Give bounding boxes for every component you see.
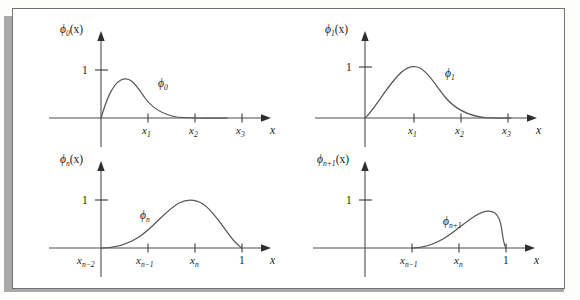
x-axis-label: x	[269, 124, 276, 136]
y-tick-label-one: 1	[346, 194, 352, 206]
origin-label: xn−2	[76, 254, 95, 269]
figure-plate: ϕ0(x) 1 x1 x2 x3 x ϕ0	[12, 8, 565, 289]
x-tick-label-1: xn−1	[399, 254, 418, 269]
y-axis-arrow-icon	[97, 161, 104, 171]
y-tick-label-one: 1	[82, 194, 88, 206]
x-axis-label: x	[269, 254, 276, 266]
x-tick-label-3: x3	[235, 124, 245, 139]
curve-label-phi-1: ϕ1	[445, 67, 455, 82]
x-tick-label-1: x1	[407, 124, 417, 139]
y-tick-label-one: 1	[346, 61, 352, 73]
curve-phi-n	[101, 200, 242, 248]
panel-phi-0: ϕ0(x) 1 x1 x2 x3 x ϕ0	[27, 15, 295, 155]
y-axis-label: ϕn(x)	[60, 153, 83, 168]
y-axis-label: ϕ1(x)	[325, 23, 348, 38]
y-axis-label: ϕn+1(x)	[317, 153, 349, 168]
x-tick-label-2: x2	[454, 124, 464, 139]
y-axis-arrow-icon	[97, 31, 104, 41]
curve-phi-1	[365, 67, 511, 118]
x-tick-label-3: 1	[239, 254, 245, 266]
x-axis-arrow-icon	[525, 244, 535, 251]
x-tick-label-3: x3	[501, 124, 511, 139]
curve-label-phi-n-plus-1: ϕn+1	[443, 215, 462, 230]
y-tick-label-one: 1	[82, 64, 88, 76]
curve-label-phi-n: ϕn	[140, 209, 150, 224]
x-tick-label-2: xn	[453, 254, 463, 269]
x-tick-label-1: xn−1	[135, 254, 154, 269]
x-axis-arrow-icon	[261, 114, 271, 121]
x-axis-label: x	[533, 254, 540, 266]
y-axis-arrow-icon	[361, 31, 368, 41]
x-tick-label-3: 1	[503, 254, 509, 266]
y-axis-label: ϕ0(x)	[60, 23, 83, 38]
curve-label-phi-0: ϕ0	[158, 77, 168, 92]
x-tick-label-2: x2	[188, 124, 198, 139]
x-tick-label-2: xn	[189, 254, 199, 269]
figure-root: ϕ0(x) 1 x1 x2 x3 x ϕ0	[0, 0, 580, 300]
panel-phi-n-plus-1: ϕn+1(x) 1 xn−1 xn 1 x ϕn+1	[295, 149, 563, 289]
x-axis-label: x	[535, 124, 542, 136]
y-axis-arrow-icon	[361, 161, 368, 171]
x-axis-arrow-icon	[261, 244, 271, 251]
x-axis-arrow-icon	[527, 114, 537, 121]
x-tick-label-1: x1	[141, 124, 151, 139]
panel-phi-n: ϕn(x) 1 xn−2 xn−1 xn 1 x ϕn	[27, 149, 295, 289]
panel-phi-1: ϕ1(x) 1 x1 x2 x3 x ϕ1	[295, 15, 563, 155]
